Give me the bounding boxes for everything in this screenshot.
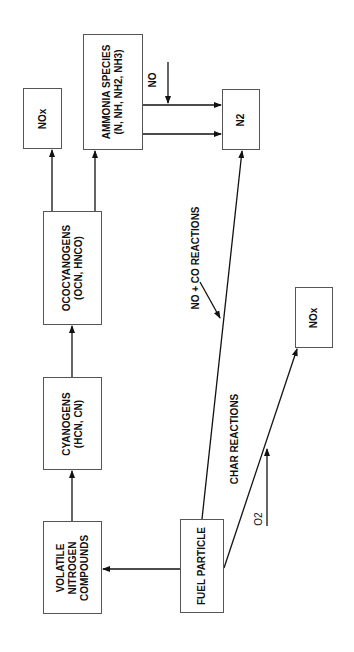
- edge-label-no: NO: [147, 73, 158, 88]
- node-nox-top: NOx: [23, 88, 62, 149]
- fuel-label: FUEL PARTICLE: [196, 527, 208, 605]
- node-ammonia-species: AMMONIA SPECIES (N, NH, NH2, NH3): [83, 34, 143, 150]
- ococyanogens-label: OCOCYANOGENS (OCN, HNCO): [61, 225, 85, 311]
- node-volatile-nitrogen: VOLATILE NITROGEN COMPOUNDS: [43, 521, 102, 614]
- nox-top-label: NOx: [37, 108, 49, 129]
- ammonia-label: AMMONIA SPECIES (N, NH, NH2, NH3): [101, 45, 125, 140]
- cyanogens-line1: CYANOGENS: [61, 392, 73, 456]
- ammonia-line2: (N, NH, NH2, NH3): [113, 45, 125, 140]
- cyanogens-line2: (HCN, CN): [73, 392, 85, 456]
- pointer-no-co: [200, 282, 220, 318]
- node-ococyanogens: OCOCYANOGENS (OCN, HNCO): [43, 211, 102, 325]
- node-nox-right: NOx: [295, 287, 333, 348]
- volatile-label: VOLATILE NITROGEN COMPOUNDS: [55, 534, 91, 600]
- ammonia-line1: AMMONIA SPECIES: [101, 45, 113, 140]
- n2-label: N2: [235, 113, 247, 126]
- edge-label-o2: O2: [253, 512, 264, 525]
- edge-label-no-co-reactions: NO + CO REACTIONS: [190, 206, 201, 309]
- volatile-line1: VOLATILE: [55, 534, 67, 600]
- nox-right-label: NOx: [308, 307, 320, 328]
- node-fuel-particle: FUEL PARTICLE: [180, 519, 224, 613]
- ococyanogens-line2: (OCN, HNCO): [73, 225, 85, 311]
- volatile-line3: COMPOUNDS: [79, 534, 91, 600]
- edge-label-char-reactions: CHAR REACTIONS: [229, 394, 240, 485]
- node-n2: N2: [222, 89, 260, 150]
- ococyanogens-line1: OCOCYANOGENS: [61, 225, 73, 311]
- cyanogens-label: CYANOGENS (HCN, CN): [61, 392, 85, 456]
- node-cyanogens: CYANOGENS (HCN, CN): [43, 377, 102, 470]
- volatile-line2: NITROGEN: [67, 534, 79, 600]
